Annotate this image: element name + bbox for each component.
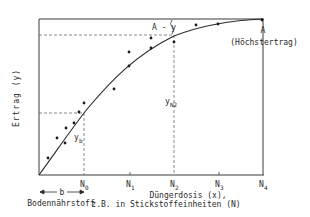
data-point [73, 122, 76, 125]
x-tick-labels: N0 N1 N2 N3 N4 [80, 180, 268, 191]
gap-label: A - y [152, 23, 176, 32]
x-axis-label-line2: z.B. in Stickstoffeinheiten (N) [91, 200, 240, 209]
data-point [173, 41, 176, 44]
data-point [217, 23, 220, 26]
y-axis-label: Ertrag (y) [12, 69, 21, 127]
yn2-label: y N2 [165, 97, 178, 108]
tick-n3: N3 [215, 180, 224, 191]
data-point [78, 111, 81, 114]
data-point [128, 51, 131, 54]
soil-nutrient-label: Bodennährstoff [27, 199, 95, 208]
yield-chart: Ertrag (y) A (Höchstertrag) A - y y b y … [0, 0, 310, 217]
data-point [128, 65, 131, 68]
max-yield-label: A [261, 26, 266, 35]
svg-text:0: 0 [85, 184, 89, 191]
data-point [195, 24, 198, 27]
guide-lines [39, 35, 174, 175]
svg-text:2: 2 [175, 184, 179, 191]
data-point [261, 19, 264, 22]
tick-n2: N2 [170, 180, 179, 191]
svg-text:1: 1 [131, 184, 135, 191]
data-point [56, 137, 59, 140]
max-yield-desc: (Höchstertrag) [230, 38, 297, 47]
arrow-right-icon [80, 190, 84, 194]
svg-text:3: 3 [220, 184, 224, 191]
data-point [113, 88, 116, 91]
data-point [150, 37, 153, 40]
svg-text:N2: N2 [170, 101, 178, 108]
tick-n0: N0 [80, 180, 89, 191]
svg-text:b: b [79, 137, 83, 144]
data-point [65, 127, 68, 130]
b-label: b [60, 188, 65, 197]
tick-n1: N1 [126, 180, 135, 191]
yb-label: y b [74, 133, 83, 144]
arrow-left-icon [40, 190, 44, 194]
data-point [150, 47, 153, 50]
data-point [64, 142, 67, 145]
tick-n4: N4 [259, 180, 268, 191]
svg-text:4: 4 [264, 184, 268, 191]
x-axis-label-line1: Düngerdosis (x), [149, 191, 226, 200]
data-point [47, 157, 50, 160]
data-point [83, 102, 86, 105]
